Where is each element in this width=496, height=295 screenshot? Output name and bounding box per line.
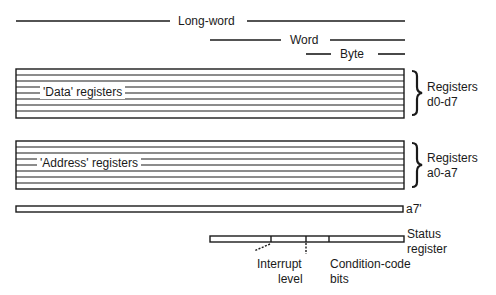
- status-register-bar: [210, 236, 404, 242]
- ccr-label-1: Condition-code: [330, 258, 411, 271]
- data-registers-side-label-2: d0-d7: [427, 96, 458, 109]
- interrupt-level-label-2: level: [278, 273, 303, 286]
- a7-prime-register: [16, 206, 403, 212]
- address-register-brace-icon: [412, 143, 422, 187]
- status-register-label-2: register: [407, 243, 447, 256]
- data-register-brace-icon: [412, 71, 422, 115]
- a7-prime-label: a7': [406, 203, 422, 216]
- long-word-label: Long-word: [178, 15, 235, 28]
- interrupt-level-label-1: Interrupt: [257, 258, 302, 271]
- address-registers-side-label-1: Registers: [427, 152, 478, 165]
- address-registers-side-label-2: a0-a7: [427, 167, 458, 180]
- data-registers-side-label-1: Registers: [427, 81, 478, 94]
- address-registers-label: 'Address' registers: [37, 157, 141, 170]
- ccr-label-2: bits: [330, 273, 349, 286]
- data-registers-label: 'Data' registers: [40, 86, 125, 99]
- word-label: Word: [290, 34, 318, 47]
- byte-label: Byte: [340, 48, 364, 61]
- status-register-label-1: Status: [407, 228, 441, 241]
- interrupt-level-pointer: [254, 244, 270, 251]
